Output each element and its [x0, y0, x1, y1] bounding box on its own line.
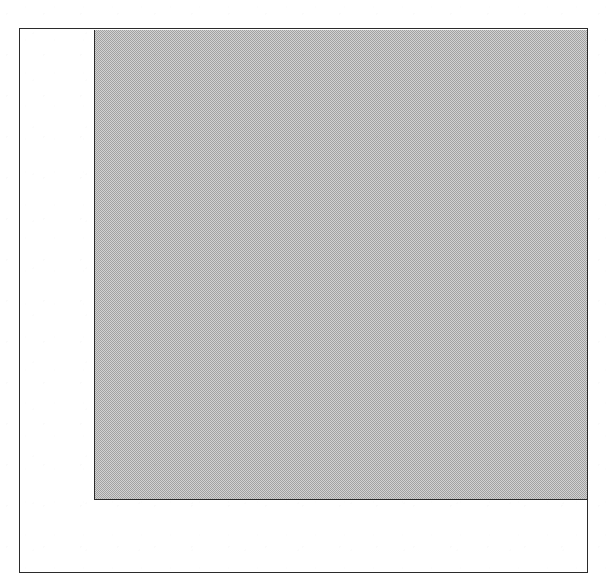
figure-page: [0, 0, 608, 587]
shaded-rectangle: [94, 30, 587, 500]
figure-outer-border: [19, 28, 588, 573]
